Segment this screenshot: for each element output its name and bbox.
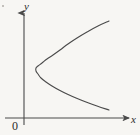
figure-container: y x 0 (0, 0, 140, 135)
scan-speck-artifact (2, 5, 4, 7)
parabola-curve (36, 21, 109, 110)
x-axis-label: x (131, 114, 136, 125)
y-axis-label: y (24, 1, 29, 12)
origin-label: 0 (12, 120, 18, 132)
parabola-figure-svg (0, 0, 140, 135)
